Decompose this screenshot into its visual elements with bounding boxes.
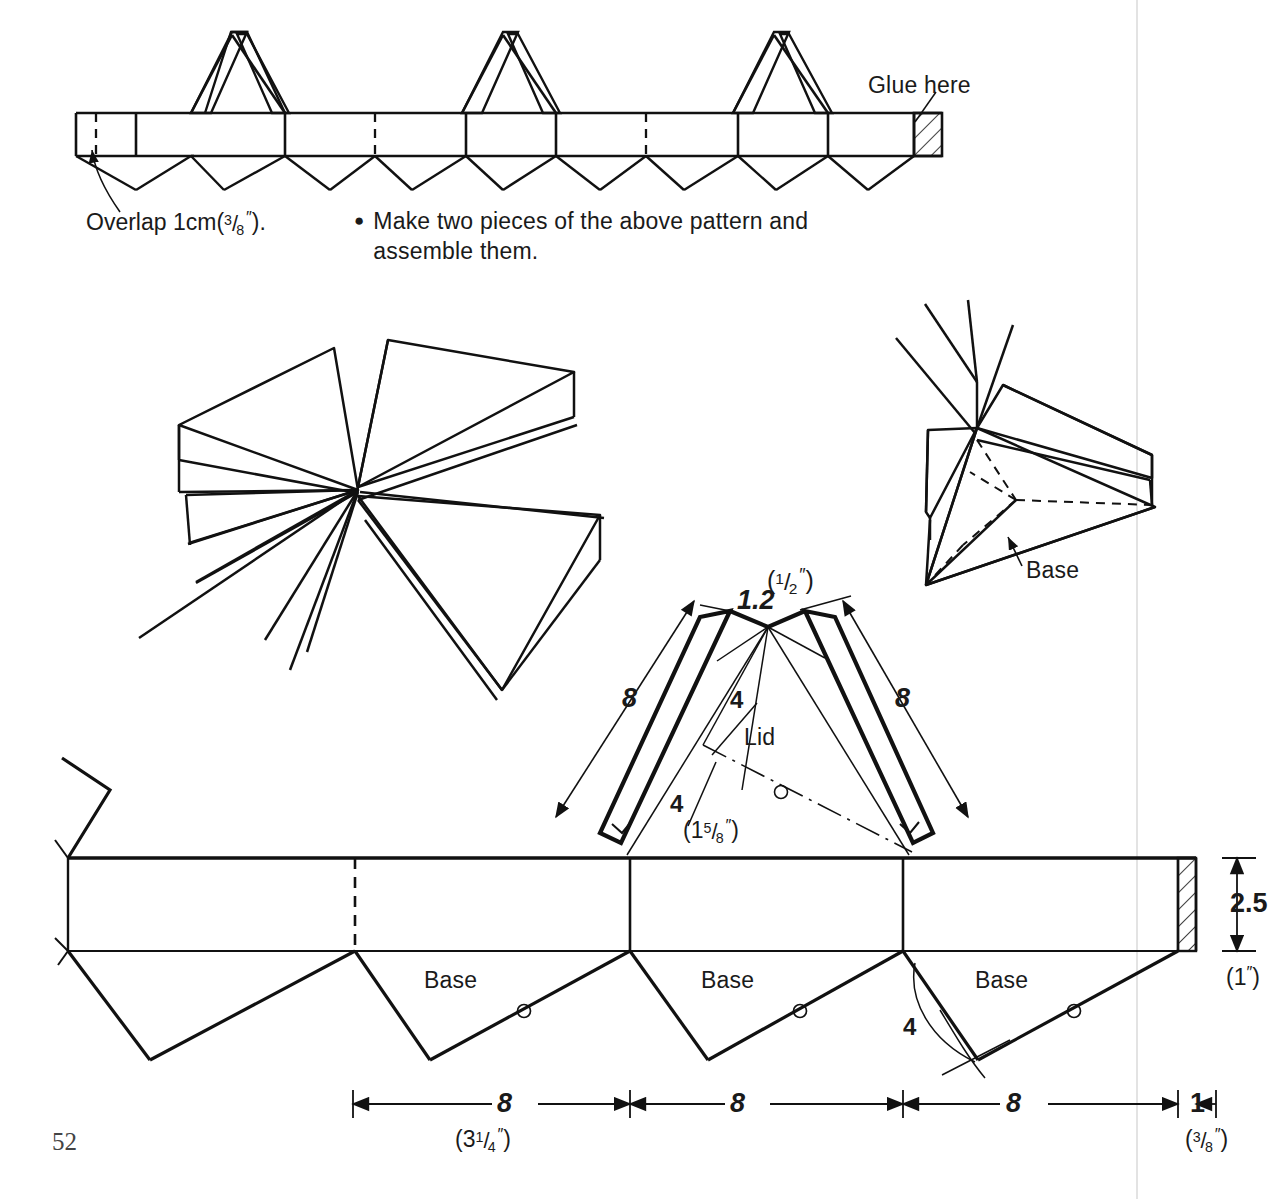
bullet-icon: ● xyxy=(354,206,364,236)
base-height-paren-close: ) xyxy=(1252,964,1260,990)
base-width-dimension-2: 8 xyxy=(730,1088,745,1119)
base-panel-label-3: Base xyxy=(975,967,1028,994)
base-width-last-inch-dimension: (3/8″) xyxy=(1185,1126,1228,1154)
base-width-first-inch-mark: ″ xyxy=(497,1125,503,1144)
lid-inner-whole: 1 xyxy=(691,817,704,843)
base-width-first-paren-open: ( xyxy=(455,1126,463,1152)
base-width-dimension-1: 8 xyxy=(497,1088,512,1119)
base-width-first-inch-dimension: (31/4″) xyxy=(455,1126,511,1154)
base-flap-marks xyxy=(518,1005,1081,1018)
folded-base-leader xyxy=(1008,537,1022,566)
overlap-label-paren-open: ( xyxy=(216,209,224,235)
lid-apex-inch-mark: ″ xyxy=(799,565,805,585)
base-width-last-paren-close: ) xyxy=(1220,1126,1228,1152)
base-panel-label-2: Base xyxy=(701,967,754,994)
base-width-first-fraction: 1/4 xyxy=(475,1127,497,1154)
lid-side-dimension-left: 8 xyxy=(622,683,637,714)
lid-inner-dimension-lower: 4 xyxy=(670,790,683,818)
lid-inner-frac-denominator: 8 xyxy=(716,830,724,846)
overlap-inch-mark: ″ xyxy=(246,208,252,227)
overlap-frac-numerator: 3 xyxy=(224,212,232,228)
lid-strip-pattern-art xyxy=(76,32,942,190)
base-height-inch-dimension: (1″) xyxy=(1226,964,1260,991)
glue-here-label: Glue here xyxy=(868,72,971,99)
lid-side-dimension-right: 8 xyxy=(895,683,910,714)
base-height-dimension: 2.5 xyxy=(1230,888,1268,919)
lid-inner-frac-numerator: 5 xyxy=(703,820,711,836)
lid-apex-frac-numerator: 1 xyxy=(775,570,784,587)
lid-inner-paren-close: ) xyxy=(731,817,739,843)
base-width-last-inch-mark: ″ xyxy=(1215,1125,1221,1144)
folded-base-label: Base xyxy=(1026,557,1079,584)
base-width-dimension-4: 1 xyxy=(1190,1088,1205,1119)
lid-apex-fraction: 1/2 xyxy=(775,567,799,596)
base-panel-label-1: Base xyxy=(424,967,477,994)
base-width-last-fraction: 3/8 xyxy=(1193,1127,1215,1154)
lid-apex-inch-dimension: (1/2″) xyxy=(767,566,814,596)
lid-inner-inch-mark: ″ xyxy=(725,816,731,835)
base-width-first-frac-denominator: 4 xyxy=(488,1139,496,1155)
overlap-frac-denominator: 8 xyxy=(236,222,244,238)
base-angle-dimension: 4 xyxy=(903,1013,916,1041)
folded-assembly-art xyxy=(896,300,1155,585)
base-height-inch-mark: ″ xyxy=(1246,963,1252,982)
lid-inner-inch-dimension: (15/8″) xyxy=(683,817,739,845)
base-width-first-frac-numerator: 1 xyxy=(475,1129,483,1145)
base-width-last-frac-numerator: 3 xyxy=(1193,1129,1201,1145)
base-height-paren-open: ( xyxy=(1226,964,1234,990)
base-height-inch-value: 1 xyxy=(1234,964,1247,990)
assembly-note: ● Make two pieces of the above pattern a… xyxy=(354,206,914,266)
base-width-first-whole: 3 xyxy=(463,1126,476,1152)
lid-inner-dimension-upper: 4 xyxy=(730,686,743,714)
base-width-dimension-3: 8 xyxy=(1006,1088,1021,1119)
lid-label: Lid xyxy=(744,724,775,751)
base-width-last-frac-denominator: 8 xyxy=(1205,1139,1213,1155)
overlap-label-prefix: Overlap 1cm xyxy=(86,209,216,235)
overlap-label: Overlap 1cm(3/8″). xyxy=(86,209,266,237)
base-width-last-paren-open: ( xyxy=(1185,1126,1193,1152)
assembly-note-line2: assemble them. xyxy=(373,236,808,266)
exploded-assembly-art xyxy=(139,340,604,700)
base-width-first-paren-close: ) xyxy=(503,1126,511,1152)
page-number: 52 xyxy=(52,1128,77,1156)
overlap-leader-arrow xyxy=(92,150,120,212)
base-strip-pattern-art xyxy=(55,758,1196,1060)
overlap-label-paren-close: ). xyxy=(252,209,266,235)
overlap-fraction: 3/8 xyxy=(224,210,246,237)
bottom-dimension-lines xyxy=(353,1090,1216,1118)
lid-apex-paren-close: ) xyxy=(806,566,814,594)
assembly-note-line1: Make two pieces of the above pattern and xyxy=(373,206,808,236)
lid-inner-fraction: 5/8 xyxy=(703,818,725,845)
lid-inner-paren-open: ( xyxy=(683,817,691,843)
lid-apex-frac-denominator: 2 xyxy=(789,580,798,597)
